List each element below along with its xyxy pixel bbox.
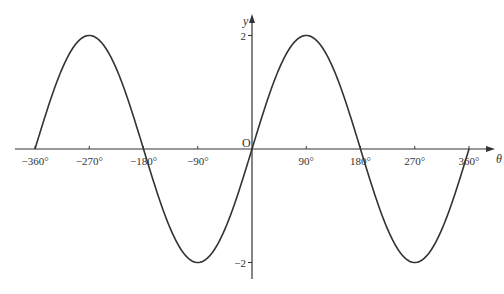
x-tick-label: −180° [130, 155, 157, 167]
x-tick-label: 90° [299, 155, 314, 167]
x-tick-label: 270° [404, 155, 425, 167]
x-tick-label: −270° [76, 155, 103, 167]
x-tick-label: 180° [350, 155, 371, 167]
y-tick-label: 2 [241, 30, 247, 42]
y-axis-label: y [242, 14, 249, 28]
x-tick-label: −90° [187, 155, 209, 167]
origin-label: O [242, 136, 251, 150]
y-axis-arrow-icon [249, 14, 255, 23]
x-axis-arrow-icon [486, 146, 495, 152]
x-axis [15, 146, 495, 152]
x-axis-label: θ [496, 152, 502, 166]
x-tick-label: −360° [21, 155, 48, 167]
x-tick-label: 360° [459, 155, 480, 167]
y-tick-label: −2 [234, 257, 246, 269]
sine-graph: −360°−270°−180°−90°90°180°270°360° 2−2 y… [0, 0, 504, 294]
